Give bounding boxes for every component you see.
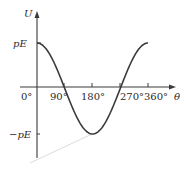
y-tick-label-pE: pE (13, 38, 27, 49)
y-tick-label-neg-pE: −pE (9, 129, 32, 140)
scan-artifact-line (30, 134, 92, 163)
energy-vs-angle-figure: U pE −pE 0° 90° 180° 270° 360° θ (0, 0, 186, 169)
x-tick-label-360: 360° (144, 91, 168, 102)
x-tick-label-90: 90° (50, 91, 68, 102)
x-axis-arrow-icon (169, 85, 176, 90)
x-axis-label: θ (174, 91, 180, 102)
y-axis-arrow-icon (35, 11, 40, 18)
plot-svg: U pE −pE 0° 90° 180° 270° 360° θ (0, 0, 186, 169)
x-tick-label-270: 270° (120, 91, 144, 102)
y-axis-label: U (24, 8, 33, 19)
x-tick-label-0: 0° (21, 91, 32, 102)
x-tick-label-180: 180° (81, 91, 105, 102)
potential-energy-curve (37, 43, 148, 134)
